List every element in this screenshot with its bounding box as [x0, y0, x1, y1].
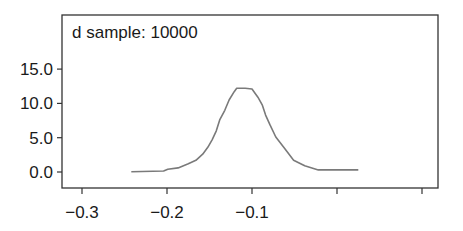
y-tick-label: 5.0 [29, 129, 53, 148]
chart-title: d sample: 10000 [72, 23, 198, 42]
x-tick-label: −0.3 [65, 203, 99, 222]
y-axis: 0.05.010.015.0 [20, 60, 62, 182]
y-tick-label: 15.0 [20, 60, 53, 79]
density-curve [131, 88, 358, 171]
x-axis: −0.3−0.2−0.1 [65, 188, 422, 222]
density-chart: d sample: 10000 0.05.010.015.0 −0.3−0.2−… [0, 0, 463, 231]
y-tick-label: 0.0 [29, 163, 53, 182]
y-tick-label: 10.0 [20, 94, 53, 113]
x-tick-label: −0.1 [235, 203, 269, 222]
x-tick-label: −0.2 [150, 203, 184, 222]
